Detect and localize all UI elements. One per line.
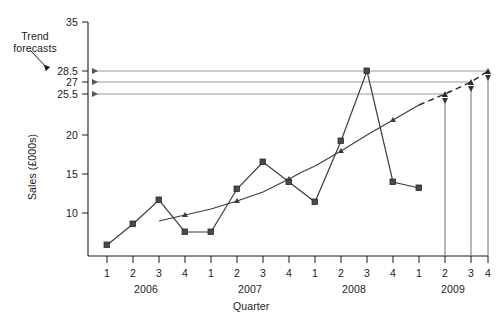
sales-series-markers: [104, 68, 422, 248]
forecast-vertical-arrows: [445, 75, 488, 256]
trend-extrapolation-line: [419, 71, 488, 105]
x-tick-label-1: 2: [123, 267, 143, 279]
x-tick-label-9: 2: [331, 267, 351, 279]
trend-forecasts-annotation-line1: Trend: [4, 30, 66, 42]
forecast-guide-lines: [92, 71, 488, 94]
x-axis-title: Quarter: [233, 300, 269, 312]
axis-lines: [88, 22, 488, 256]
x-tick-label-8: 1: [305, 267, 325, 279]
x-tick-label-11: 4: [383, 267, 403, 279]
x-tick-label-7: 4: [279, 267, 299, 279]
y-tick-label-10: 10: [46, 207, 78, 219]
trend-forecasts-annotation-line2: forecasts: [0, 42, 70, 54]
sales-series-line: [107, 71, 419, 245]
y-tick-label-20: 20: [46, 129, 78, 141]
y-tick-label-25-5: 25.5: [46, 88, 78, 100]
trend-series-line: [159, 105, 419, 221]
x-tick-label-4: 1: [201, 267, 221, 279]
x-tick-label-2: 3: [149, 267, 169, 279]
x-tick-label-5: 2: [227, 267, 247, 279]
y-axis-ticks: [82, 22, 88, 213]
x-group-label-2007: 2007: [227, 283, 273, 295]
y-axis-title: Sales (£000s): [26, 134, 38, 200]
trend-series-markers: [182, 117, 396, 217]
x-tick-label-0: 1: [97, 267, 117, 279]
x-group-label-2006: 2006: [123, 283, 169, 295]
y-tick-label-15: 15: [46, 168, 78, 180]
x-tick-label-15: 4: [478, 267, 498, 279]
y-tick-label-27: 27: [46, 76, 78, 88]
x-group-label-2009: 2009: [430, 283, 476, 295]
y-tick-label-35: 35: [46, 16, 78, 28]
x-group-label-2008: 2008: [331, 283, 377, 295]
x-tick-label-10: 3: [357, 267, 377, 279]
chart-container: 35 28.5 27 25.5 20 15 10 Sales (£000s) T…: [0, 0, 502, 318]
x-tick-label-6: 3: [253, 267, 273, 279]
x-tick-label-3: 4: [175, 267, 195, 279]
x-tick-label-12: 1: [409, 267, 429, 279]
x-tick-label-13: 2: [435, 267, 455, 279]
x-axis-ticks: [107, 256, 488, 263]
